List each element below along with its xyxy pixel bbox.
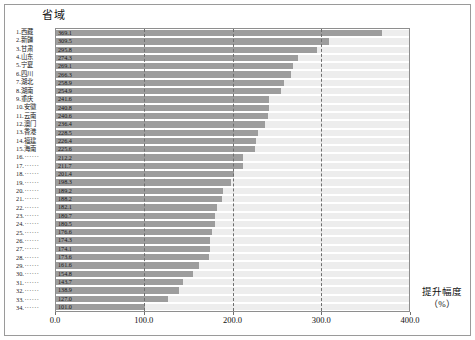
bar-fill — [56, 246, 210, 252]
category-label: 6.四川 — [16, 70, 54, 78]
category-name: ······ — [24, 163, 39, 169]
bar-fill — [56, 38, 329, 44]
category-label: 9.重庆 — [16, 95, 54, 103]
bar-fill — [56, 63, 293, 69]
bar-row: 266.3 — [56, 70, 409, 78]
category-index: 5. — [16, 62, 21, 68]
category-label: 34.······ — [16, 304, 54, 312]
category-label: 27.······ — [16, 245, 54, 253]
category-index: 3. — [16, 46, 21, 52]
bar-row: 212.2 — [56, 153, 409, 161]
bar-row: 198.3 — [56, 178, 409, 186]
category-index: 14. — [16, 138, 24, 144]
bar-fill — [56, 154, 243, 160]
category-name: 湖南 — [21, 88, 33, 94]
bar-value-label: 180.5 — [58, 221, 72, 227]
category-index: 9. — [16, 96, 21, 102]
bar-fill — [56, 113, 268, 119]
category-name: 甘肃 — [21, 46, 33, 52]
category-name: ······ — [24, 180, 39, 186]
category-name: ······ — [24, 238, 39, 244]
category-label: 25.······ — [16, 229, 54, 237]
bar-value-label: 254.9 — [58, 88, 72, 94]
category-name: ······ — [24, 154, 39, 160]
bar-fill — [56, 271, 193, 277]
category-label: 10.安徽 — [16, 103, 54, 111]
category-name: 福建 — [24, 138, 36, 144]
bar-value-label: 212.2 — [58, 155, 72, 161]
category-label: 24.······ — [16, 220, 54, 228]
category-label: 1.西藏 — [16, 28, 54, 36]
bar-row: 236.4 — [56, 120, 409, 128]
bar-row: 188.2 — [56, 195, 409, 203]
category-name: ······ — [24, 255, 39, 261]
category-name: 新疆 — [21, 37, 33, 43]
category-index: 11. — [16, 113, 24, 119]
value-axis-unit-text: （%） — [412, 299, 472, 310]
bar-value-label: 143.7 — [58, 279, 72, 285]
category-name: ······ — [24, 288, 39, 294]
category-label: 30.······ — [16, 270, 54, 278]
category-label: 7.湖北 — [16, 78, 54, 86]
bar-row: 174.3 — [56, 236, 409, 244]
category-name: ······ — [24, 246, 39, 252]
bar-value-label: 211.7 — [58, 163, 72, 169]
category-index: 4. — [16, 54, 21, 60]
bar-row: 127.0 — [56, 295, 409, 303]
category-name: ······ — [24, 213, 39, 219]
category-index: 20. — [16, 188, 24, 194]
bar-fill — [56, 130, 258, 136]
category-name: 重庆 — [21, 96, 33, 102]
bar-value-label: 188.2 — [58, 196, 72, 202]
bar-row: 274.3 — [56, 54, 409, 62]
bar-fill — [56, 30, 382, 36]
bar-fill — [56, 80, 284, 86]
bar-row: 226.4 — [56, 137, 409, 145]
category-axis-title: 省域 — [42, 6, 66, 22]
bar-value-label: 274.3 — [58, 55, 72, 61]
category-name: ······ — [24, 297, 39, 303]
category-label: 20.······ — [16, 187, 54, 195]
bar-row: 154.8 — [56, 270, 409, 278]
bar-value-label: 127.0 — [58, 296, 72, 302]
category-label: 12.澳门 — [16, 120, 54, 128]
category-name: ······ — [24, 305, 39, 311]
category-index: 17. — [16, 163, 24, 169]
category-label: 19.······ — [16, 178, 54, 186]
category-label: 26.······ — [16, 237, 54, 245]
bar-value-label: 258.9 — [58, 80, 72, 86]
category-index: 32. — [16, 288, 24, 294]
bar-row: 173.6 — [56, 253, 409, 261]
category-label: 3.甘肃 — [16, 45, 54, 53]
category-name: ······ — [24, 196, 39, 202]
category-index: 2. — [16, 37, 21, 43]
bar-fill — [56, 71, 291, 77]
bar-row: 180.7 — [56, 212, 409, 220]
bar-row: 176.6 — [56, 228, 409, 236]
category-index: 6. — [16, 71, 21, 77]
bar-value-label: 161.6 — [58, 262, 72, 268]
x-axis-tick-label: 300.0 — [312, 316, 331, 325]
bar-fill — [56, 213, 215, 219]
bar-fill — [56, 221, 215, 227]
bar-row: 241.6 — [56, 95, 409, 103]
bar-fill — [56, 188, 223, 194]
category-label: 11.云南 — [16, 112, 54, 120]
bar-fill — [56, 287, 179, 293]
category-name: ······ — [24, 221, 39, 227]
category-label: 29.······ — [16, 262, 54, 270]
category-name: 云南 — [24, 113, 36, 119]
category-name: ······ — [24, 230, 39, 236]
bar-value-label: 228.5 — [58, 130, 72, 136]
bar-fill — [56, 262, 199, 268]
bar-value-label: 101.0 — [58, 304, 72, 310]
bar-fill — [56, 229, 212, 235]
bar-row: 369.1 — [56, 29, 409, 37]
x-axis-tick-label: 100.0 — [134, 316, 153, 325]
bar-value-label: 174.1 — [58, 246, 72, 252]
category-label: 31.······ — [16, 279, 54, 287]
bar-row: 174.1 — [56, 245, 409, 253]
bar-row: 258.9 — [56, 79, 409, 87]
bar-value-label: 269.1 — [58, 63, 72, 69]
category-label: 8.湖南 — [16, 87, 54, 95]
